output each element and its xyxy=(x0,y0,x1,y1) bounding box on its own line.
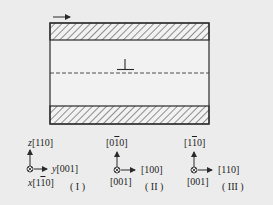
coord-system-2-axes xyxy=(114,152,135,173)
coord3-out-label: [001] xyxy=(187,177,209,187)
coord2-out-label: [001] xyxy=(110,177,132,187)
top-hatched-layer xyxy=(50,23,209,40)
coord2-roman-label: ( II ) xyxy=(145,182,163,192)
bottom-hatched-layer xyxy=(50,106,209,124)
coord2-up-label: [010] xyxy=(106,138,128,148)
coord1-right-label: y[001] xyxy=(52,164,78,174)
coord1-out-label: x[110] xyxy=(28,178,54,188)
coord1-up-label: z[110] xyxy=(28,138,53,148)
coord2-right-label: [100] xyxy=(141,165,163,175)
coord1-roman-label: ( I ) xyxy=(70,182,85,192)
coord3-roman-label: ( III ) xyxy=(222,182,244,192)
coord-system-3-axes xyxy=(191,152,212,173)
coord3-right-label: [110] xyxy=(218,165,239,175)
coord3-up-label: [110] xyxy=(184,138,205,148)
coord-system-1-axes xyxy=(27,150,47,172)
